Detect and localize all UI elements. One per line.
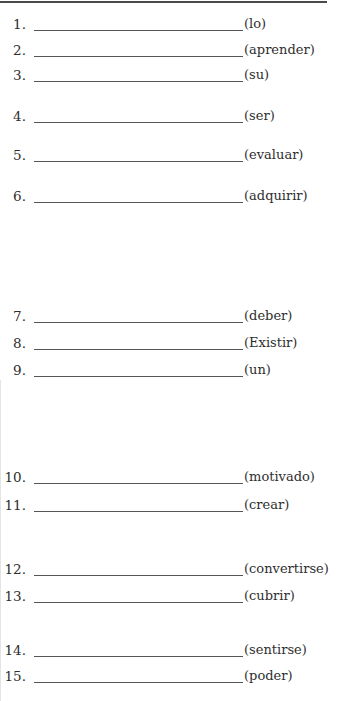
- answer-blank[interactable]: [34, 376, 243, 377]
- worksheet-item-1: 1. (lo): [0, 12, 342, 32]
- worksheet-item-2: 2. (aprender): [0, 38, 342, 58]
- item-hint-word: (Existir): [244, 335, 297, 351]
- item-number: 1.: [0, 16, 26, 32]
- worksheet-item-4: 4. (ser): [0, 104, 342, 124]
- item-number: 8.: [0, 335, 26, 351]
- item-number: 3.: [0, 67, 26, 83]
- answer-blank[interactable]: [34, 602, 243, 603]
- answer-blank[interactable]: [34, 511, 243, 512]
- item-number: 15.: [0, 668, 26, 684]
- item-number: 2.: [0, 42, 26, 58]
- worksheet-item-11: 11. (crear): [0, 493, 342, 513]
- item-hint-word: (convertirse): [244, 561, 329, 577]
- answer-blank[interactable]: [34, 202, 243, 203]
- item-number: 6.: [0, 188, 26, 204]
- item-number: 10.: [0, 469, 26, 485]
- worksheet-item-13: 13. (cubrir): [0, 584, 342, 604]
- item-number: 11.: [0, 497, 26, 513]
- item-number: 9.: [0, 362, 26, 378]
- answer-blank[interactable]: [34, 122, 243, 123]
- worksheet-item-6: 6. (adquirir): [0, 184, 342, 204]
- item-number: 14.: [0, 642, 26, 658]
- top-divider-rule: [0, 1, 327, 3]
- answer-blank[interactable]: [34, 349, 243, 350]
- item-hint-word: (sentirse): [244, 642, 307, 658]
- answer-blank[interactable]: [34, 56, 243, 57]
- answer-blank[interactable]: [34, 161, 243, 162]
- worksheet-item-7: 7. (deber): [0, 304, 342, 324]
- item-hint-word: (crear): [244, 497, 289, 513]
- item-hint-word: (evaluar): [244, 147, 303, 163]
- item-hint-word: (poder): [244, 668, 293, 684]
- item-hint-word: (deber): [244, 308, 292, 324]
- item-number: 5.: [0, 147, 26, 163]
- item-number: 4.: [0, 108, 26, 124]
- worksheet-item-8: 8. (Existir): [0, 331, 342, 351]
- item-number: 12.: [0, 561, 26, 577]
- worksheet-item-5: 5. (evaluar): [0, 143, 342, 163]
- item-number: 13.: [0, 588, 26, 604]
- item-number: 7.: [0, 308, 26, 324]
- answer-blank[interactable]: [34, 656, 243, 657]
- answer-blank[interactable]: [34, 81, 243, 82]
- answer-blank[interactable]: [34, 322, 243, 323]
- worksheet-item-15: 15. (poder): [0, 664, 342, 684]
- item-hint-word: (motivado): [244, 469, 315, 485]
- worksheet-item-10: 10. (motivado): [0, 465, 342, 485]
- answer-blank[interactable]: [34, 682, 243, 683]
- item-hint-word: (ser): [244, 108, 275, 124]
- item-hint-word: (cubrir): [244, 588, 295, 604]
- item-hint-word: (adquirir): [244, 188, 308, 204]
- worksheet-item-9: 9. (un): [0, 358, 342, 378]
- worksheet-item-3: 3. (su): [0, 63, 342, 83]
- worksheet-item-12: 12. (convertirse): [0, 557, 342, 577]
- item-hint-word: (un): [244, 362, 271, 378]
- worksheet-item-14: 14. (sentirse): [0, 638, 342, 658]
- answer-blank[interactable]: [34, 483, 243, 484]
- answer-blank[interactable]: [34, 575, 243, 576]
- item-hint-word: (lo): [244, 16, 266, 32]
- answer-blank[interactable]: [34, 30, 243, 31]
- item-hint-word: (su): [244, 67, 269, 83]
- item-hint-word: (aprender): [244, 42, 315, 58]
